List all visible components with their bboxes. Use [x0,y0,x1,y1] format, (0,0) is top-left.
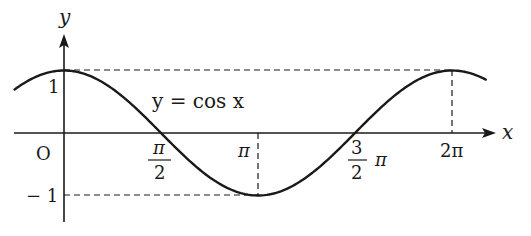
x-tick-2pi: 2π [440,140,463,161]
tick-denominator: 2 [351,162,362,183]
x-tick-3pi-over-2: 3 2 π [348,137,388,183]
tick-suffix: π [374,149,388,170]
y-axis-label: y [58,5,71,29]
y-tick-minus1: − 1 [26,185,58,206]
function-label: y = cos x [151,89,245,113]
cosine-graph: y x O 1 − 1 π 2 π 3 2 π 2π y = cos x [0,0,531,236]
tick-numerator: π [152,137,166,158]
tick-denominator: 2 [154,162,165,183]
x-tick-pi-over-2: π 2 [148,137,171,183]
y-tick-1: 1 [48,76,59,97]
x-tick-pi: π [237,140,251,161]
tick-numerator: 3 [351,137,362,158]
origin-label: O [36,143,51,164]
x-axis-label: x [502,120,513,144]
